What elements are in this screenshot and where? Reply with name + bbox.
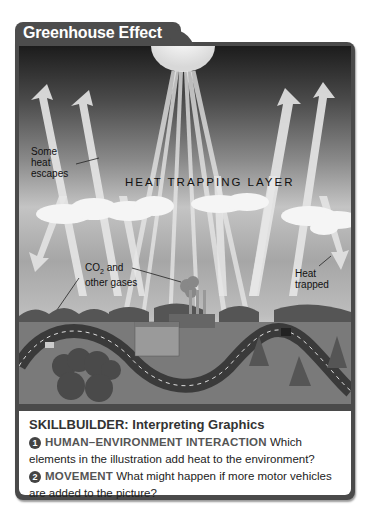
skillbuilder-title: SKILLBUILDER: Interpreting Graphics xyxy=(29,417,264,432)
question-1: 1HUMAN–ENVIRONMENT INTERACTION Which ele… xyxy=(29,434,344,468)
car-icon xyxy=(281,328,291,336)
illustration-graphic xyxy=(19,46,351,404)
heat-trapped-label: Heat trapped xyxy=(295,268,329,290)
heat-trapping-layer-label: HEAT TRAPPING LAYER xyxy=(125,176,294,188)
question-2: 2MOVEMENT What might happen if more moto… xyxy=(29,468,344,502)
heat-arrow-icon xyxy=(31,82,335,296)
number-badge-icon: 1 xyxy=(29,437,41,449)
sun-icon xyxy=(151,46,215,72)
co2-label: CO2 and other gases xyxy=(85,262,137,288)
car-icon xyxy=(45,342,54,348)
greenhouse-illustration: Some heat escapes HEAT TRAPPING LAYER CO… xyxy=(19,46,351,404)
question-keyword: MOVEMENT xyxy=(45,470,113,482)
skillbuilder-box: SKILLBUILDER: Interpreting Graphics 1HUM… xyxy=(19,411,351,495)
figure-title: Greenhouse Effect xyxy=(23,24,162,42)
number-badge-icon: 2 xyxy=(29,471,41,483)
question-keyword: HUMAN–ENVIRONMENT INTERACTION xyxy=(45,436,267,448)
some-heat-escapes-label: Some heat escapes xyxy=(31,146,68,179)
